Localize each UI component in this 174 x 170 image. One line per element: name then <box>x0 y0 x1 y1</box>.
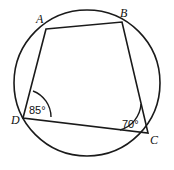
vertex-label-a: A <box>35 12 44 26</box>
circumscribed-circle <box>14 10 160 156</box>
vertex-label-c: C <box>150 133 159 147</box>
geometry-canvas: A B C D 85° 70° <box>0 0 174 170</box>
vertex-label-b: B <box>120 6 128 20</box>
vertex-label-d: D <box>10 113 20 127</box>
quadrilateral-abcd <box>23 22 148 133</box>
angle-measure-c: 70° <box>122 118 139 130</box>
angle-measure-d: 85° <box>29 104 46 116</box>
geometry-figure: A B C D 85° 70° <box>0 0 174 170</box>
